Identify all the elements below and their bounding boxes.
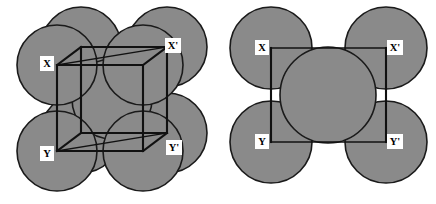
bcc-xxyy-section-2d-panel: X X' Y Y' — [218, 0, 436, 204]
section-vertex-label-yprime-text: Y' — [390, 136, 401, 147]
vertex-label-xprime: X' — [165, 38, 181, 53]
section-vertex-label-x: X — [255, 40, 269, 55]
section-vertex-label-xprime: X' — [387, 40, 403, 55]
vertex-label-yprime-text: Y' — [169, 142, 180, 153]
vertex-label-y-text: Y — [43, 148, 51, 159]
vertex-label-x: X — [40, 56, 54, 71]
vertex-label-yprime: Y' — [166, 140, 182, 155]
vertex-label-xprime-text: X' — [168, 40, 179, 51]
sphere-section-centre — [280, 47, 376, 143]
section-vertex-label-yprime: Y' — [387, 134, 403, 149]
figure-root: X X' Y Y' — [0, 0, 436, 204]
section-vertex-label-y-text: Y — [258, 136, 266, 147]
bcc-unit-cell-3d-panel: X X' Y Y' — [0, 0, 218, 204]
section-vertex-label-xprime-text: X' — [390, 42, 401, 53]
section-vertex-label-y: Y — [255, 134, 269, 149]
section-vertex-label-x-text: X — [258, 42, 266, 53]
vertex-label-y: Y — [40, 146, 54, 161]
vertex-label-x-text: X — [43, 58, 51, 69]
